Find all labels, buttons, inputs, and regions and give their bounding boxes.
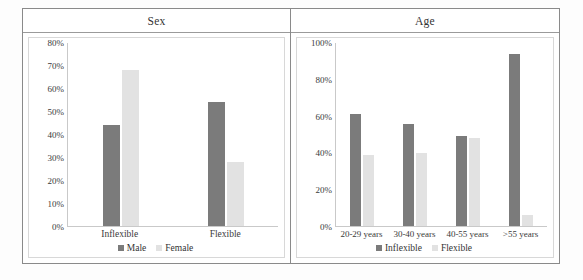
y-tick-label: 80% (316, 75, 333, 84)
legend-sex: MaleFemale (33, 244, 278, 255)
bar-flexible (363, 155, 374, 226)
legend-age: InflexibleFlexible (301, 244, 547, 255)
panel-body-age: 100%80%60%40%20%0% 20-29 years30-40 year… (291, 33, 559, 263)
plot-age (335, 43, 547, 227)
y-tick-label: 80% (48, 39, 65, 48)
panel-title-sex: Sex (148, 15, 166, 27)
y-tick-label: 20% (48, 176, 65, 185)
bar-group-container-sex (68, 43, 278, 226)
y-tick-label: 40% (316, 149, 333, 158)
y-axis-sex: 80%70%60%50%40%30%20%10%0% (33, 43, 67, 227)
chart-age: 100%80%60%40%20%0% 20-29 years30-40 year… (296, 37, 554, 258)
bar-group-container-age (336, 43, 547, 226)
legend-label: Inflexible (385, 244, 422, 254)
bar-group (442, 43, 495, 226)
bar-female (122, 70, 139, 225)
x-axis-category-label: Flexible (173, 229, 279, 240)
legend-swatch-icon (376, 245, 382, 251)
bar-group (68, 43, 173, 226)
panel-body-sex: 80%70%60%50%40%30%20%10%0% InflexibleFle… (23, 33, 290, 263)
legend-swatch-icon (156, 245, 162, 251)
bar-inflexible (509, 54, 520, 226)
plot-area-age: 100%80%60%40%20%0% (301, 43, 547, 227)
chart-page: Sex 80%70%60%50%40%30%20%10%0% Inflexibl… (0, 0, 583, 280)
y-tick-label: 0% (320, 223, 332, 232)
x-axis-category-label: 30-40 years (388, 229, 441, 239)
bar-male (103, 125, 120, 225)
legend-label: Female (165, 244, 193, 254)
legend-label: Male (127, 244, 147, 254)
bar-flexible (416, 153, 427, 226)
bar-group (494, 43, 547, 226)
chart-sex: 80%70%60%50%40%30%20%10%0% InflexibleFle… (28, 37, 285, 258)
bar-inflexible (456, 136, 467, 226)
y-tick-label: 40% (48, 130, 65, 139)
y-tick-label: 70% (48, 61, 65, 70)
panel-sex: Sex 80%70%60%50%40%30%20%10%0% Inflexibl… (23, 9, 291, 263)
legend-item-flexible[interactable]: Flexible (432, 244, 472, 254)
y-tick-label: 20% (316, 186, 333, 195)
bar-group (173, 43, 278, 226)
bar-flexible (522, 215, 533, 226)
legend-item-female[interactable]: Female (156, 244, 193, 254)
y-tick-label: 30% (48, 153, 65, 162)
y-tick-label: 60% (316, 112, 333, 121)
bar-male (208, 102, 225, 225)
y-tick-label: 10% (48, 199, 65, 208)
plot-sex (67, 43, 278, 227)
panel-age: Age 100%80%60%40%20%0% 20-29 years30-40 … (291, 9, 559, 263)
x-axis-sex: InflexibleFlexible (33, 229, 278, 240)
legend-label: Flexible (441, 244, 472, 254)
plot-area-sex: 80%70%60%50%40%30%20%10%0% (33, 43, 278, 227)
bar-group (389, 43, 442, 226)
legend-swatch-icon (118, 245, 124, 251)
x-axis-age: 20-29 years30-40 years40-55 years>55 yea… (301, 229, 547, 239)
bar-group (336, 43, 389, 226)
y-tick-label: 60% (48, 84, 65, 93)
legend-item-inflexible[interactable]: Inflexible (376, 244, 422, 254)
bar-inflexible (350, 114, 361, 226)
x-axis-category-label: 20-29 years (335, 229, 388, 239)
legend-swatch-icon (432, 245, 438, 251)
x-axis-category-label: 40-55 years (441, 229, 494, 239)
bar-flexible (469, 138, 480, 226)
panel-header-sex: Sex (23, 9, 290, 33)
bar-female (227, 162, 244, 226)
y-tick-label: 100% (311, 39, 332, 48)
x-axis-category-label: Inflexible (67, 229, 173, 240)
panel-title-age: Age (415, 15, 435, 27)
x-axis-category-label: >55 years (494, 229, 547, 239)
two-panel-table: Sex 80%70%60%50%40%30%20%10%0% Inflexibl… (22, 8, 560, 264)
y-tick-label: 0% (52, 222, 64, 231)
legend-item-male[interactable]: Male (118, 244, 147, 254)
panel-header-age: Age (291, 9, 559, 33)
bar-inflexible (403, 124, 414, 227)
y-tick-label: 50% (48, 107, 65, 116)
y-axis-age: 100%80%60%40%20%0% (301, 43, 335, 227)
